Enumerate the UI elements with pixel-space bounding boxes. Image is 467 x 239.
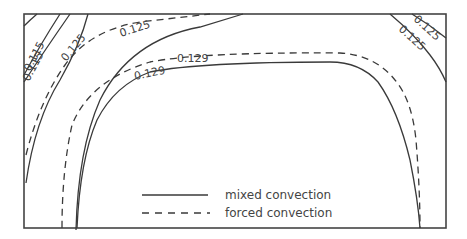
- contour-label-0.129-dashed: 0.129: [177, 52, 209, 65]
- legend-label-mixed: mixed convection: [225, 188, 331, 202]
- contour-dashed-0.125: [26, 14, 210, 155]
- legend-label-forced: forced convection: [225, 206, 332, 220]
- contour-solid-0.125: [76, 14, 243, 230]
- contour-label-0.125-left: 0.125: [58, 31, 88, 63]
- contour-label-0.125-top: 0.125: [118, 18, 152, 40]
- contour-solid-0.129: [77, 62, 420, 228]
- legend: mixed convection forced convection: [142, 188, 332, 220]
- contour-diagram: 0.115 0.115 0.125 0.125 0.129 0.129 0.12…: [0, 0, 467, 239]
- contour-solid-corner-tl-1: [24, 14, 37, 26]
